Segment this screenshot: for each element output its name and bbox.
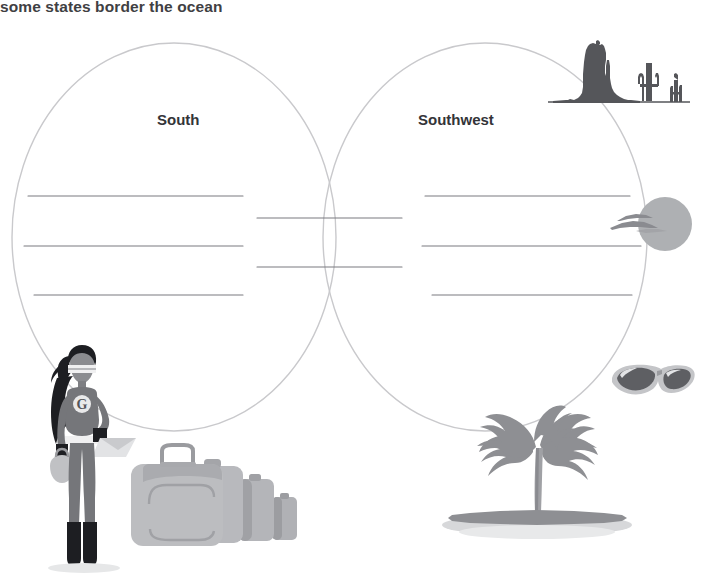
- venn-label-south: South: [157, 111, 200, 128]
- venn-diagram: G: [0, 0, 713, 577]
- luggage-set-icon: [131, 445, 297, 546]
- chest-emblem-letter: G: [77, 397, 88, 412]
- saguaro-cactus-icon: [638, 63, 659, 101]
- answer-lines-south: [24, 196, 243, 295]
- venn-label-southwest: Southwest: [418, 111, 494, 128]
- palm-tree-island-icon: [442, 406, 632, 539]
- saguaro-cactus-small-icon: [670, 73, 682, 102]
- superhero-traveler-figure: G: [48, 345, 136, 573]
- answer-lines-overlap: [257, 218, 402, 267]
- worksheet-page: some states border the ocean: [0, 0, 713, 577]
- mesa-butte-icon: [553, 40, 640, 103]
- answer-lines-southwest: [422, 196, 641, 295]
- sunglasses-icon: [612, 365, 695, 395]
